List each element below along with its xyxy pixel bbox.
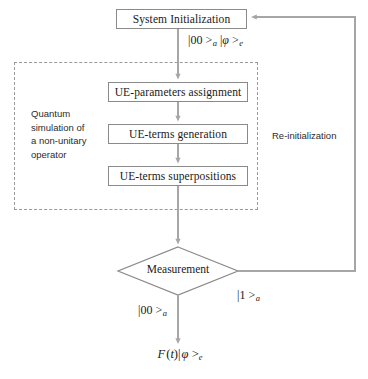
node-ue-terms-superpositions[interactable]: UE-terms superpositions	[108, 166, 248, 186]
annotation-dashed-group: Quantum simulation of a non-unitary oper…	[31, 107, 109, 161]
node-ue-terms-generation[interactable]: UE-terms generation	[108, 124, 248, 144]
node-ue-parameters-assignment[interactable]: UE-parameters assignment	[108, 82, 248, 102]
edge-label-measurement-zero-branch: |00 >a	[138, 303, 167, 318]
flowchart-canvas: System Initialization UE-parameters assi…	[0, 0, 368, 379]
node-system-initialization[interactable]: System Initialization	[116, 9, 247, 29]
edge-label-measurement-one-branch: |1 >a	[237, 288, 260, 303]
edge-label-init-to-params: |00 >a |φ >e	[188, 33, 243, 48]
node-measurement-label: Measurement	[128, 263, 228, 275]
final-output-expression: F (t)| φ >e	[100, 347, 260, 362]
annotation-reinitialization: Re-initialization	[272, 129, 364, 143]
